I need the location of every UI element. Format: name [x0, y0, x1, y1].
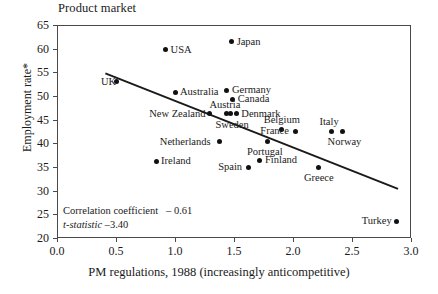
x-tick-mark: [116, 238, 117, 242]
y-tick-label: 25: [15, 207, 49, 222]
data-point-label: Austria: [209, 100, 240, 111]
y-tick-label: 30: [15, 184, 49, 199]
correlation-value: – 0.61: [166, 205, 192, 216]
y-tick-mark: [53, 25, 57, 26]
y-tick-mark: [53, 214, 57, 215]
x-tick-mark: [57, 238, 58, 242]
y-tick-label: 45: [15, 113, 49, 128]
data-point-label: Norway: [328, 137, 362, 148]
x-tick-label: 2.5: [332, 244, 372, 259]
x-tick-label: 0.0: [37, 244, 77, 259]
data-point: [207, 111, 212, 116]
tstatistic-line: t-statistic –3.40: [63, 218, 192, 232]
x-tick-mark: [411, 238, 412, 242]
y-tick-mark: [53, 49, 57, 50]
data-point-label: USA: [171, 45, 192, 56]
y-tick-label: 60: [15, 42, 49, 57]
tstatistic-value: –3.40: [105, 219, 129, 230]
data-point-label: Sweden: [215, 120, 248, 131]
x-tick-label: 1.5: [214, 244, 254, 259]
tstatistic-label: t-statistic: [63, 219, 102, 230]
x-axis-label: PM regulations, 1988 (increasingly antic…: [0, 265, 438, 280]
data-point-label: France: [260, 126, 289, 137]
data-point-label: Finland: [265, 155, 297, 166]
data-point-label: Canada: [238, 94, 270, 105]
y-tick-mark: [53, 72, 57, 73]
data-point-label: Ireland: [161, 156, 191, 167]
data-point-label: Greece: [304, 173, 334, 184]
data-point: [265, 139, 270, 144]
data-point: [154, 159, 159, 164]
x-tick-mark: [234, 238, 235, 242]
data-point-label: Spain: [218, 162, 242, 173]
chart-figure: Product market Employment rate* PM regul…: [0, 0, 438, 294]
data-point: [234, 111, 239, 116]
y-tick-label: 40: [15, 136, 49, 151]
data-point-label: UK: [101, 77, 116, 88]
correlation-label: Correlation coefficient: [63, 205, 158, 216]
x-tick-label: 2.0: [273, 244, 313, 259]
data-point: [246, 165, 251, 170]
y-tick-label: 65: [15, 18, 49, 33]
data-point-label: Japan: [237, 37, 261, 48]
x-tick-mark: [293, 238, 294, 242]
y-tick-label: 50: [15, 89, 49, 104]
data-point: [173, 90, 178, 95]
chart-title: Product market: [58, 1, 136, 16]
data-point-label: Netherlands: [160, 137, 211, 148]
y-tick-mark: [53, 120, 57, 121]
data-point-label: Italy: [319, 117, 338, 128]
x-tick-mark: [175, 238, 176, 242]
data-point-label: Australia: [180, 87, 219, 98]
y-tick-mark: [53, 191, 57, 192]
statistics-annotation: Correlation coefficient – 0.61 t-statist…: [63, 204, 192, 232]
y-tick-label: 55: [15, 65, 49, 80]
y-tick-label: 35: [15, 160, 49, 175]
data-point-label: New Zealand: [149, 109, 205, 120]
x-tick-label: 3.0: [391, 244, 431, 259]
y-tick-mark: [53, 167, 57, 168]
y-tick-mark: [53, 143, 57, 144]
data-point: [340, 129, 345, 134]
y-tick-mark: [53, 96, 57, 97]
data-point: [293, 129, 298, 134]
x-tick-label: 0.5: [96, 244, 136, 259]
correlation-line: Correlation coefficient – 0.61: [63, 204, 192, 218]
data-point-label: Turkey: [362, 216, 392, 227]
x-tick-label: 1.0: [155, 244, 195, 259]
x-tick-mark: [352, 238, 353, 242]
